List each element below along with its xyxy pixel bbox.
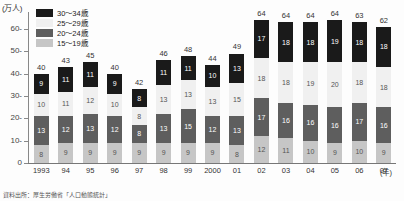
bar-segment: 9 [107,143,122,163]
bar-segment: 18 [254,58,269,98]
x-axis-tick-label: 05 [323,166,347,180]
bar-total-label: 62 [372,16,396,25]
x-axis-tick-label: 1993 [29,166,53,180]
plot-area: 010-20-30-40-50-60- 91013840111112943111… [28,12,396,164]
bar-segment: 15 [229,83,244,117]
bar-stack: 1113159 [181,56,196,163]
bar-column[interactable]: 1818171063 [347,12,371,163]
bar-segment: 18 [278,22,293,62]
bar-segment: 11 [156,60,171,85]
bar-segment: 13 [156,114,171,143]
x-axis-tick-label: 02 [249,166,273,180]
x-axis-tick-label: 94 [53,166,77,180]
bar-column[interactable]: 111213945 [78,12,102,163]
bar-total-label: 48 [176,45,200,54]
x-axis-name: (年) [380,166,392,177]
stacked-bar-chart: (万人) 30～34歳25～29歳20～24歳15～19歳 010-20-30-… [0,0,404,201]
bar-segment: 9 [132,143,147,163]
bar-segment: 16 [376,107,391,143]
bar-total-label: 64 [323,9,347,18]
bar-segment: 12 [83,87,98,114]
bar-total-label: 64 [249,9,273,18]
x-axis-tick-label: 01 [225,166,249,180]
bar-segment: 9 [205,143,220,163]
x-axis-tick-label: 97 [127,166,151,180]
bar-segment: 13 [181,80,196,109]
bar-total-label: 63 [347,11,371,20]
bar-segment: 13 [34,116,49,145]
bar-segment: 9 [376,143,391,163]
x-axis-labels: 1993949596979899200001020304050607 [29,166,396,180]
y-axis-tick-label: 20- [10,113,22,122]
bar-column[interactable]: 1818161164 [274,12,298,163]
x-axis-line [28,163,396,164]
y-axis-tick-label: 60- [10,24,22,33]
bar-group: 9101384011111294311121394591012940888942… [29,12,396,163]
bar-stack: 18181710 [352,22,367,163]
bar-segment: 11 [83,62,98,87]
bar-column[interactable]: 131513849 [225,12,249,163]
bar-segment: 10 [107,94,122,116]
y-axis-tick-label: 50- [10,46,22,55]
x-axis-tick-label: 06 [347,166,371,180]
bar-segment: 12 [205,116,220,143]
bar-total-label: 44 [200,54,224,63]
bar-segment: 13 [205,87,220,116]
bar-column[interactable]: 91012940 [102,12,126,163]
bar-total-label: 49 [225,42,249,51]
x-axis-tick-label: 98 [151,166,175,180]
bar-column[interactable]: 1718171264 [249,12,273,163]
bar-total-label: 45 [78,51,102,60]
bar-segment: 16 [327,107,342,143]
bar-total-label: 64 [274,11,298,20]
y-axis-tick-label: 10- [10,136,22,145]
bar-segment: 17 [254,20,269,58]
bar-segment: 9 [58,143,73,163]
bar-stack: 18191610 [303,22,318,163]
bar-column[interactable]: 101312944 [200,12,224,163]
bar-column[interactable]: 192016964 [323,12,347,163]
bar-segment: 12 [107,116,122,143]
bar-stack: 1013129 [205,65,220,163]
bar-column[interactable]: 111112943 [53,12,77,163]
bar-segment: 18 [376,27,391,67]
bar-stack: 1920169 [327,20,342,163]
bar-segment: 9 [34,74,49,94]
bar-segment: 19 [327,20,342,62]
bar-stack: 17181712 [254,20,269,163]
bar-segment: 13 [229,116,244,145]
bar-column[interactable]: 888942 [127,12,151,163]
bar-segment: 12 [254,136,269,163]
bar-stack: 1818169 [376,27,391,163]
bar-segment: 18 [352,22,367,62]
bar-column[interactable]: 1819161064 [298,12,322,163]
bar-segment: 10 [34,94,49,116]
y-axis-tick-label: 40- [10,69,22,78]
bar-column[interactable]: 91013840 [29,12,53,163]
bar-total-label: 40 [102,63,126,72]
y-axis-unit-label: (万人) [2,2,22,13]
x-axis-tick-label: 04 [298,166,322,180]
bar-segment: 9 [181,143,196,163]
bar-segment: 8 [229,145,244,163]
bar-column[interactable]: 111313946 [151,12,175,163]
bar-stack: 1113139 [156,60,171,163]
bar-segment: 9 [107,74,122,94]
bar-segment: 8 [132,107,147,125]
bar-column[interactable]: 181816962 [372,12,396,163]
bar-total-label: 64 [298,11,322,20]
x-axis-tick-label: 96 [102,166,126,180]
bar-stack: 910138 [34,74,49,163]
bar-segment: 16 [278,103,293,139]
bar-segment: 15 [181,109,196,143]
bar-total-label: 42 [127,78,151,87]
bar-segment: 18 [303,22,318,62]
bar-column[interactable]: 111315948 [176,12,200,163]
chart-footnote: 資料出所：厚生労働省「人口動態統計」 [3,190,111,199]
bar-segment: 10 [205,65,220,87]
bar-stack: 8889 [132,89,147,163]
bar-segment: 8 [132,125,147,143]
bar-segment: 19 [303,62,318,104]
bar-segment: 11 [58,92,73,117]
bar-stack: 18181611 [278,22,293,163]
